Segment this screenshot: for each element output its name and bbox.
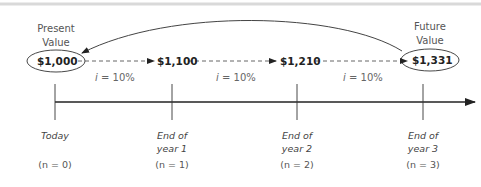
time-label-line1: End of [142, 129, 202, 142]
present-value-amount: $1,000 [37, 54, 78, 68]
present-value-heading-line1: Present [26, 22, 86, 36]
period-label-n2: (n = 2) [267, 159, 327, 170]
time-label-line1: End of [393, 129, 453, 142]
time-label-line1: End of [267, 129, 327, 142]
rate-value: = 10% [98, 72, 135, 83]
future-value-heading: Future Value [400, 20, 460, 48]
future-value-heading-line2: Value [400, 34, 460, 48]
present-value-heading: Present Value [26, 22, 86, 50]
rate-value: = 10% [346, 72, 383, 83]
time-label-n1: End of year 1 [142, 129, 202, 155]
time-label-line2: year 3 [393, 142, 453, 155]
time-value-timeline-diagram: Present Value Future Value $1,000 $1,100… [0, 0, 481, 187]
rate-label-2: i = 10% [216, 72, 256, 83]
year1-value-amount: $1,100 [157, 54, 198, 68]
time-label-n3: End of year 3 [393, 129, 453, 155]
rate-value: = 10% [219, 72, 256, 83]
present-value-heading-line2: Value [26, 36, 86, 50]
future-value-heading-line1: Future [400, 20, 460, 34]
time-label-line1: Today [25, 129, 85, 142]
time-label-n2: End of year 2 [267, 129, 327, 155]
time-label-line2: year 1 [142, 142, 202, 155]
year2-value-amount: $1,210 [280, 54, 321, 68]
future-value-amount: $1,331 [412, 53, 453, 67]
rate-label-1: i = 10% [95, 72, 135, 83]
period-label-n0: (n = 0) [25, 159, 85, 170]
rate-label-3: i = 10% [343, 72, 383, 83]
time-label-line2: year 2 [267, 142, 327, 155]
time-label-n0: Today [25, 129, 85, 142]
period-label-n1: (n = 1) [142, 159, 202, 170]
discount-arc-arrow [82, 20, 402, 53]
period-label-n3: (n = 3) [393, 159, 453, 170]
